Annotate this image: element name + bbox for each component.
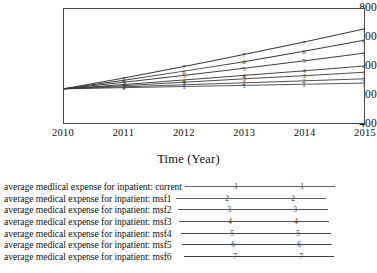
legend-key-4: 44 (179, 216, 329, 227)
x-axis-tick-2011: 2011 (100, 127, 146, 138)
legend-marker-3: 3 (293, 206, 297, 215)
x-axis-tick-2013: 2013 (221, 127, 267, 138)
legend-key-1: 11 (185, 181, 335, 192)
legend-label-2: average medical expense for inpatient: m… (4, 193, 172, 204)
legend-row-1[interactable]: average medlical expense for inpatient: … (4, 181, 377, 193)
series-7-marker: 7 (122, 75, 126, 83)
legend-marker-4: 4 (228, 217, 232, 226)
legend-label-1: average medlical expense for inpatient: … (4, 181, 182, 192)
legend-row-3[interactable]: average medical expense for inpatient: m… (4, 204, 377, 216)
legend-key-2: 22 (176, 193, 326, 204)
series-7: 77777 (64, 26, 364, 89)
legend-marker-7: 7 (233, 252, 237, 261)
x-axis-tick-2012: 2012 (161, 127, 207, 138)
legend-marker-1: 1 (234, 182, 238, 191)
legend-marker-7: 7 (299, 252, 303, 261)
series-5-marker: 5 (362, 50, 364, 58)
legend-row-6[interactable]: average medical expense for inpatient: m… (4, 239, 377, 251)
legend-key-6: 66 (182, 239, 332, 250)
legend-marker-6: 6 (297, 240, 301, 249)
legend-marker-2: 2 (225, 194, 229, 203)
legend-label-6: average medical expense for inpatient: m… (4, 239, 172, 250)
series-6-marker: 6 (362, 37, 364, 45)
legend-label-5: average medical expense for inpatient: m… (4, 228, 172, 239)
legend-row-4[interactable]: average medical expense for inpatient: m… (4, 216, 377, 228)
series-4-marker: 4 (302, 67, 306, 75)
legend-key-7: 77 (184, 251, 334, 262)
legend-marker-4: 4 (294, 217, 298, 226)
chart-legend: average medlical expense for inpatient: … (4, 181, 377, 262)
series-6-marker: 6 (302, 48, 306, 56)
series-7-marker: 7 (242, 51, 246, 59)
x-axis-tick-2010: 2010 (40, 127, 86, 138)
legend-marker-6: 6 (231, 240, 235, 249)
series-6-marker: 6 (242, 58, 246, 66)
legend-row-2[interactable]: average medical expense for inpatient: m… (4, 193, 377, 205)
series-7-marker: 7 (302, 39, 306, 47)
legend-key-5: 55 (181, 228, 331, 239)
x-axis-tick-2015: 2015 (342, 127, 377, 138)
legend-marker-1: 1 (300, 182, 304, 191)
series-7-marker: 7 (182, 63, 186, 71)
x-axis-title: Time (Year) (0, 152, 377, 167)
legend-marker-2: 2 (291, 194, 295, 203)
series-4-marker: 4 (362, 63, 364, 71)
legend-label-7: average medical expense for inpatient: m… (4, 251, 172, 262)
legend-row-5[interactable]: average medical expense for inpatient: m… (4, 227, 377, 239)
series-7-marker: 7 (362, 26, 364, 34)
legend-label-3: average medical expense for inpatient: m… (4, 204, 172, 215)
plot-area: 11111222223333344444555556666677777 (63, 8, 365, 124)
legend-marker-5: 5 (296, 229, 300, 238)
legend-label-4: average medical expense for inpatient: m… (4, 216, 172, 227)
legend-marker-3: 3 (227, 206, 231, 215)
x-axis-tick-2014: 2014 (282, 127, 328, 138)
legend-key-3: 33 (178, 204, 328, 215)
series-4-marker: 4 (242, 72, 246, 80)
series-5-marker: 5 (302, 57, 306, 65)
series-lines: 11111222223333344444555556666677777 (64, 9, 364, 123)
legend-marker-5: 5 (230, 229, 234, 238)
legend-row-7[interactable]: average medical expense for inpatient: m… (4, 251, 377, 263)
chart-region: 800700600500400 111112222233333444445555… (0, 0, 377, 178)
